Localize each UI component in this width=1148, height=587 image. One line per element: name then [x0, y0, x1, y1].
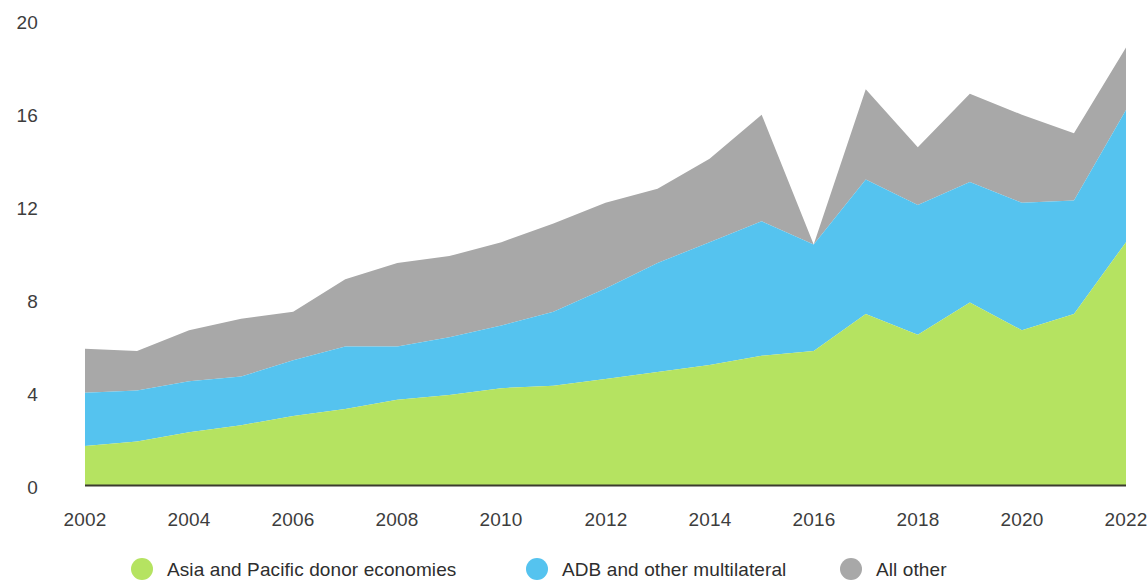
legend-swatch-icon-adb-multilateral	[526, 558, 548, 580]
area-series-group	[85, 47, 1126, 485]
x-tick-label-2016: 2016	[773, 510, 855, 529]
x-tick-label-2002: 2002	[44, 510, 126, 529]
legend-swatch-icon-asia-and-pacific	[131, 558, 153, 580]
x-tick-label-2004: 2004	[148, 510, 230, 529]
legend-label-asia-and-pacific: Asia and Pacific donor economies	[167, 560, 456, 579]
legend-item-all-other[interactable]: All other	[840, 556, 947, 582]
chart-legend: Asia and Pacific donor economies ADB and…	[0, 552, 1148, 587]
x-tick-label-2018: 2018	[877, 510, 959, 529]
x-tick-label-2010: 2010	[460, 510, 542, 529]
x-tick-label-2020: 2020	[981, 510, 1063, 529]
legend-item-adb-and-other-multilateral[interactable]: ADB and other multilateral	[526, 556, 786, 582]
x-tick-label-2006: 2006	[252, 510, 334, 529]
legend-swatch-icon-all-other	[840, 558, 862, 580]
x-tick-label-2022: 2022	[1085, 510, 1148, 529]
x-tick-label-2012: 2012	[565, 510, 647, 529]
legend-label-all-other: All other	[876, 560, 947, 579]
stacked-area-chart: 20 16 12 8 4 0 2002 2004 2006 2008 2010 …	[0, 0, 1148, 587]
plot-area	[0, 0, 1148, 500]
legend-item-asia-and-pacific-donor-economies[interactable]: Asia and Pacific donor economies	[131, 556, 456, 582]
x-tick-label-2008: 2008	[356, 510, 438, 529]
legend-label-adb-multilateral: ADB and other multilateral	[562, 560, 786, 579]
x-tick-label-2014: 2014	[669, 510, 751, 529]
